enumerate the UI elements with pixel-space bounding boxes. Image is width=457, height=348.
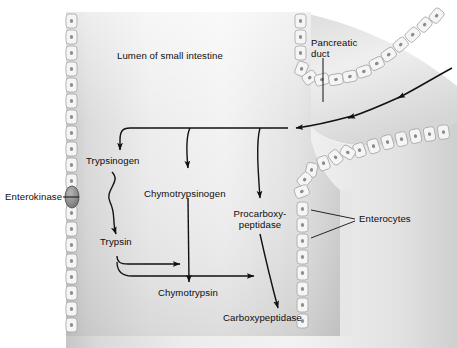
arrow-chymotrypsinogen-to-chymotrypsin — [188, 198, 189, 282]
enterocyte — [66, 30, 77, 44]
lumen-label: Lumen of small intestine — [117, 50, 223, 62]
trypsinogen-label: Trypsinogen — [86, 155, 140, 167]
procarboxypeptidase-label-line2: peptidase — [221, 219, 299, 231]
enterocyte — [66, 46, 77, 60]
enterocyte — [66, 94, 77, 108]
chymotrypsinogen-label: Chymotrypsinogen — [144, 188, 226, 200]
enterocyte — [295, 46, 306, 60]
enterocyte — [297, 266, 308, 280]
enterokinase-label: Enterokinase — [5, 191, 62, 203]
enterocyte — [409, 128, 423, 144]
enterocyte — [66, 318, 77, 332]
enterocyte — [66, 110, 77, 124]
enterocytes-label: Enterocytes — [359, 213, 411, 225]
enterocyte — [66, 14, 77, 28]
wall-strip — [340, 190, 352, 336]
carboxypeptidase-label: Carboxypeptidase — [223, 312, 302, 324]
trypsin-label: Trypsin — [100, 236, 132, 248]
enterocyte — [297, 250, 308, 264]
enterocyte — [328, 73, 344, 86]
enterocyte — [66, 270, 77, 284]
procarboxypeptidase-label-line1: Procarboxy- — [221, 208, 299, 220]
pancreatic-duct-label-line2: duct — [311, 48, 330, 60]
diagram-canvas — [0, 0, 457, 348]
enterocyte — [437, 124, 450, 139]
enterocyte — [66, 238, 77, 252]
pancreatic-protease-activation-figure: Lumen of small intestine Pancreatic duct… — [0, 0, 457, 348]
chymotrypsin-label: Chymotrypsin — [158, 287, 218, 299]
enterocyte — [66, 78, 77, 92]
enterocyte — [66, 158, 77, 172]
enterocyte — [66, 126, 77, 140]
enterocyte — [66, 62, 77, 76]
enterocyte — [66, 302, 77, 316]
enterocyte — [66, 142, 77, 156]
enterocyte — [297, 298, 308, 312]
enterocyte — [66, 254, 77, 268]
enterocyte — [423, 126, 436, 142]
pancreatic-duct-label-line1: Pancreatic — [311, 37, 357, 49]
enterocyte — [295, 14, 306, 28]
enterocyte — [297, 234, 308, 248]
enterocyte — [342, 70, 358, 84]
enterocyte — [66, 222, 77, 236]
enterocyte — [66, 286, 77, 300]
intestine-tissue — [66, 12, 457, 348]
enterocyte — [295, 30, 306, 44]
enterocyte — [297, 282, 308, 296]
